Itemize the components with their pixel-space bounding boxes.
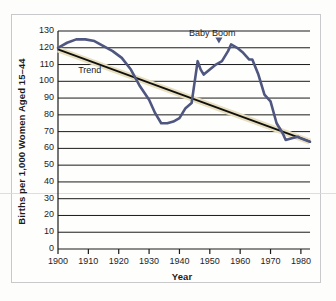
y-tick-label: 60	[28, 142, 54, 152]
y-axis-title: Births per 1,000 Women Aged 15–44	[16, 42, 27, 242]
y-tick-label: 110	[28, 59, 54, 69]
x-tick-label: 1920	[102, 256, 136, 266]
trend-line	[58, 49, 310, 141]
y-tick-label: 90	[28, 92, 54, 102]
y-tick-label: 0	[28, 243, 54, 253]
annotation-trend: Trend	[78, 65, 101, 75]
x-tick-label: 1970	[254, 256, 288, 266]
annotation-baby-boom: Baby Boom	[189, 28, 236, 38]
y-tick-label: 40	[28, 176, 54, 186]
birth-rate-line-chart: Baby Boom Trend Births per 1,000 Women A…	[0, 0, 336, 301]
y-tick-label: 50	[28, 159, 54, 169]
x-tick-label: 1950	[193, 256, 227, 266]
y-tick-label: 10	[28, 226, 54, 236]
x-tick-marks-group	[58, 249, 301, 254]
y-tick-label: 70	[28, 126, 54, 136]
y-tick-label: 130	[28, 25, 54, 35]
x-tick-label: 1980	[284, 256, 318, 266]
x-tick-label: 1940	[162, 256, 196, 266]
x-axis-title: Year	[58, 271, 306, 282]
y-tick-label: 120	[28, 42, 54, 52]
x-tick-label: 1900	[41, 256, 75, 266]
x-tick-label: 1930	[132, 256, 166, 266]
x-tick-label: 1960	[223, 256, 257, 266]
y-tick-label: 30	[28, 193, 54, 203]
y-tick-label: 20	[28, 209, 54, 219]
scanned-page-background: Baby Boom Trend Births per 1,000 Women A…	[0, 0, 336, 301]
x-tick-label: 1910	[71, 256, 105, 266]
y-tick-label: 80	[28, 109, 54, 119]
y-tick-label: 100	[28, 75, 54, 85]
